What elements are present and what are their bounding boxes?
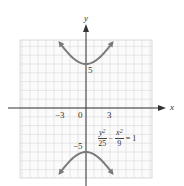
- x-axis-label: x: [170, 103, 174, 112]
- equation-rhs: = 1: [126, 134, 137, 143]
- y-tick-5: 5: [88, 66, 93, 75]
- x-tick-0: 0: [78, 111, 83, 120]
- fraction-y: y2 25: [98, 129, 107, 148]
- fraction-x: x2 9: [115, 129, 124, 148]
- minus-sign: −: [109, 134, 114, 143]
- hyperbola-plot: [0, 0, 184, 186]
- x-tick-3: 3: [107, 111, 112, 120]
- y-tick-neg5: −5: [73, 142, 83, 151]
- y-axis-label: y: [84, 14, 88, 23]
- x-tick-neg3: −3: [55, 111, 65, 120]
- equation-label: y2 25 − x2 9 = 1: [98, 129, 136, 148]
